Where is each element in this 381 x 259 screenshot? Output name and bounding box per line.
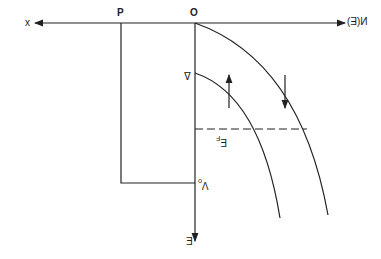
delta-label: Δ bbox=[184, 70, 191, 80]
potential-well bbox=[121, 23, 195, 183]
x-axis-label: x bbox=[25, 18, 30, 28]
inner-curve bbox=[195, 73, 280, 218]
origin-label: O bbox=[190, 8, 198, 18]
n-axis-label: N(E) bbox=[347, 17, 368, 27]
outer-curve bbox=[195, 23, 328, 215]
fermi-label: EF bbox=[216, 135, 227, 147]
energy-diagram bbox=[0, 0, 381, 259]
e-axis-label: E bbox=[186, 235, 193, 245]
p-point-label: P bbox=[117, 8, 124, 18]
v0-label: Vo bbox=[198, 178, 209, 190]
